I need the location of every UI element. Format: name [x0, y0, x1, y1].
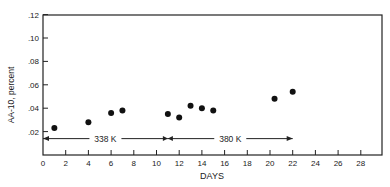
- x-axis-ticks: 0246810121416182022242628: [41, 150, 366, 168]
- data-point: [188, 103, 194, 109]
- y-tick-label: .06: [28, 81, 40, 90]
- data-point: [272, 96, 278, 102]
- x-tick-label: 26: [334, 159, 343, 168]
- data-point: [85, 119, 91, 125]
- y-tick-label: .04: [28, 104, 40, 113]
- x-tick-label: 28: [356, 159, 365, 168]
- x-tick-label: 4: [86, 159, 91, 168]
- annotation-label: 380 K: [219, 134, 242, 144]
- annotation-label: 338 K: [94, 134, 117, 144]
- y-axis-label: AA-10, percent: [6, 66, 16, 123]
- x-axis-label: DAYS: [200, 171, 224, 181]
- x-tick-label: 24: [311, 159, 320, 168]
- x-tick-label: 20: [266, 159, 275, 168]
- data-point: [51, 125, 57, 131]
- data-point: [176, 115, 182, 121]
- y-tick-label: .02: [28, 128, 40, 137]
- y-tick-label: .12: [28, 11, 40, 20]
- x-tick-label: 2: [63, 159, 68, 168]
- data-point: [165, 111, 171, 117]
- x-tick-label: 22: [288, 159, 297, 168]
- data-point: [108, 110, 114, 116]
- x-tick-label: 8: [132, 159, 137, 168]
- x-tick-label: 16: [220, 159, 229, 168]
- x-tick-label: 12: [175, 159, 184, 168]
- x-tick-label: 10: [152, 159, 161, 168]
- y-tick-label: .10: [28, 34, 40, 43]
- data-point: [119, 108, 125, 114]
- x-tick-label: 6: [109, 159, 114, 168]
- data-point: [210, 108, 216, 114]
- temperature-annotations: 338 K380 K: [43, 134, 293, 144]
- data-point: [199, 105, 205, 111]
- data-points: [51, 89, 295, 131]
- data-point: [290, 89, 296, 95]
- y-axis-ticks: .02.04.06.08.10.12: [28, 11, 48, 137]
- x-tick-label: 14: [197, 159, 206, 168]
- x-tick-label: 0: [41, 159, 46, 168]
- x-tick-label: 18: [243, 159, 252, 168]
- scatter-chart: .02.04.06.08.10.12 024681012141618202224…: [0, 0, 390, 187]
- y-tick-label: .08: [28, 57, 40, 66]
